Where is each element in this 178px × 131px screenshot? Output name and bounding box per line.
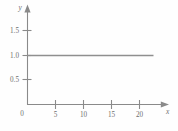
plot-area: y x 1.5 1.0 0.5 0 5 xyxy=(0,0,178,131)
x-tick-label: 10 xyxy=(80,111,88,119)
y-tick-label: 1.5 xyxy=(10,27,19,35)
x-tick-label: 20 xyxy=(136,111,144,119)
y-tick-1.5: 1.5 xyxy=(10,27,31,35)
x-tick-20: 20 xyxy=(136,100,144,119)
x-tick-15: 15 xyxy=(108,100,116,119)
y-tick-label: 0.5 xyxy=(10,76,19,84)
y-axis-label: y xyxy=(18,3,23,12)
y-axis-arrow-icon xyxy=(24,5,30,13)
origin-label: 0 xyxy=(20,110,24,118)
x-tick-label: 15 xyxy=(108,111,116,119)
x-axis-label: x xyxy=(165,107,170,116)
x-tick-label: 5 xyxy=(54,111,58,119)
x-tick-5: 5 xyxy=(54,100,58,119)
x-tick-10: 10 xyxy=(80,100,88,119)
chart-figure: y x 1.5 1.0 0.5 0 5 xyxy=(0,0,178,131)
y-tick-label: 1.0 xyxy=(10,52,19,60)
x-tick-group: 5 10 15 20 xyxy=(54,100,144,119)
y-tick-0.5: 0.5 xyxy=(10,76,31,84)
